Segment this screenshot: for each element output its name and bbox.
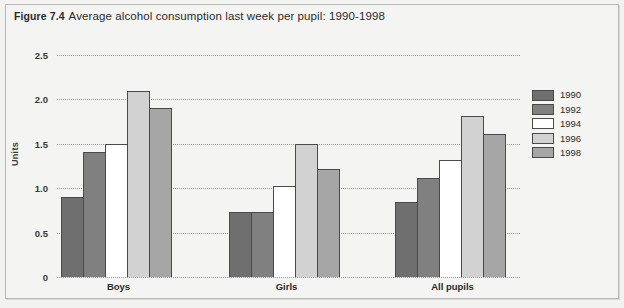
figure-title-text: Average alcohol consumption last week pe… bbox=[69, 10, 385, 22]
legend-item[interactable]: 1998 bbox=[532, 146, 602, 160]
bar[interactable] bbox=[229, 212, 252, 277]
legend-item[interactable]: 1996 bbox=[532, 131, 602, 145]
bar-group: Girls bbox=[229, 55, 344, 277]
bar[interactable] bbox=[395, 202, 418, 277]
legend-label: 1998 bbox=[560, 148, 581, 158]
figure-number: Figure 7.4 bbox=[14, 10, 65, 22]
plot-area: BoysGirlsAll pupils bbox=[57, 55, 520, 277]
legend-item[interactable]: 1994 bbox=[532, 117, 602, 131]
legend-swatch bbox=[532, 118, 554, 129]
legend-swatch bbox=[532, 90, 554, 101]
legend-item[interactable]: 1992 bbox=[532, 102, 602, 116]
bars bbox=[395, 55, 505, 277]
bar[interactable] bbox=[317, 169, 340, 277]
legend-label: 1992 bbox=[560, 105, 581, 115]
legend-label: 1990 bbox=[560, 90, 581, 100]
y-axis-tick-label: 2.5 bbox=[0, 50, 48, 61]
legend-item[interactable]: 1990 bbox=[532, 88, 602, 102]
figure-screenshot: Figure 7.4Average alcohol consumption la… bbox=[0, 0, 624, 308]
bar[interactable] bbox=[105, 144, 128, 277]
y-axis-tick-label: 0.5 bbox=[0, 227, 48, 238]
legend-label: 1994 bbox=[560, 119, 581, 129]
bar[interactable] bbox=[439, 160, 462, 277]
y-axis-tick-label: 1.5 bbox=[0, 138, 48, 149]
bar[interactable] bbox=[83, 152, 106, 277]
y-axis-tick-label: 2.0 bbox=[0, 94, 48, 105]
bar-group: Boys bbox=[61, 55, 176, 277]
x-axis-line bbox=[57, 277, 520, 278]
y-axis-tick-label: 0 bbox=[0, 272, 48, 283]
bar[interactable] bbox=[251, 212, 274, 277]
figure-title: Figure 7.4Average alcohol consumption la… bbox=[14, 10, 385, 22]
bar[interactable] bbox=[417, 178, 440, 277]
bars bbox=[229, 55, 339, 277]
bar[interactable] bbox=[61, 197, 84, 277]
bar[interactable] bbox=[149, 108, 172, 277]
legend-swatch bbox=[532, 104, 554, 115]
bar-group: All pupils bbox=[395, 55, 510, 277]
legend-swatch bbox=[532, 147, 554, 158]
bar[interactable] bbox=[461, 116, 484, 277]
bar[interactable] bbox=[273, 186, 296, 277]
legend-swatch bbox=[532, 133, 554, 144]
x-axis-group-label: Girls bbox=[229, 281, 344, 292]
x-axis-group-label: All pupils bbox=[395, 281, 510, 292]
legend-label: 1996 bbox=[560, 134, 581, 144]
bar[interactable] bbox=[127, 91, 150, 277]
x-axis-group-label: Boys bbox=[61, 281, 176, 292]
legend: 19901992199419961998 bbox=[532, 88, 602, 160]
bars bbox=[61, 55, 171, 277]
bar[interactable] bbox=[295, 144, 318, 277]
y-axis-tick-label: 1.0 bbox=[0, 183, 48, 194]
bar[interactable] bbox=[483, 134, 506, 277]
